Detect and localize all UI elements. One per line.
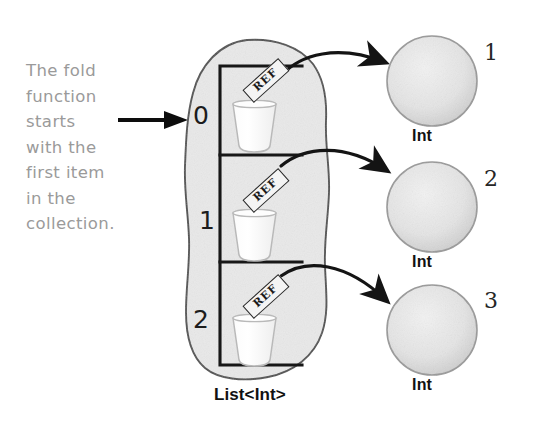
int-object-circle	[387, 36, 477, 126]
cup-icon	[233, 314, 276, 366]
int-object-circle	[387, 162, 477, 252]
int-type-label: Int	[412, 128, 432, 144]
cup-icon	[233, 209, 276, 261]
int-value-label: 2	[484, 168, 498, 190]
cell-index-label: 0	[193, 103, 209, 128]
collection-caption: List<Int>	[214, 386, 286, 403]
int-object-circle	[387, 285, 477, 375]
cell-index-label: 2	[193, 307, 209, 332]
int-value-label: 3	[484, 290, 498, 312]
cup-icon	[233, 100, 276, 152]
int-type-label: Int	[412, 254, 432, 270]
int-value-label: 1	[484, 42, 498, 64]
diagram-canvas: The fold function starts with the first …	[0, 0, 535, 439]
cell-index-label: 1	[199, 208, 215, 233]
int-type-label: Int	[412, 377, 432, 393]
